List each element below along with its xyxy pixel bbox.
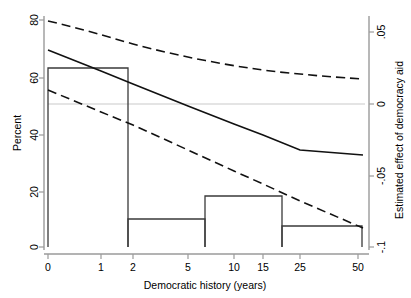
x-tick-label: 0 [45, 261, 51, 273]
x-tick-label: 2 [130, 261, 136, 273]
x-tick-label: 25 [294, 261, 306, 273]
x-tick-label: 15 [257, 261, 269, 273]
y-tick-label: 0 [28, 244, 40, 250]
histogram-bar [128, 219, 205, 247]
x-tick-label: 50 [352, 261, 364, 273]
x-axis-title: Democratic history (years) [144, 279, 267, 291]
left-axis: 80 60 40 20 0 Percent [11, 14, 44, 250]
y2-axis-title: Estimated effect of democracy aid [393, 61, 405, 219]
histogram-bar [205, 196, 282, 247]
y2-tick-label: -.05 [375, 167, 387, 185]
histogram-bar [282, 226, 362, 247]
x-tick-label: 1 [98, 261, 104, 273]
y2-tick-label: .05 [375, 25, 387, 40]
marginal-effect-line [48, 50, 363, 155]
chart-figure: 80 60 40 20 0 Percent 0 1 2 5 10 15 25 5… [0, 0, 411, 298]
x-tick-label: 5 [185, 261, 191, 273]
x-axis: 0 1 2 5 10 15 25 50 Democratic history (… [44, 254, 369, 291]
y2-tick-label: 0 [375, 101, 387, 107]
y-tick-label: 40 [28, 129, 40, 141]
y-tick-label: 60 [28, 72, 40, 84]
upper-confidence-bound [48, 21, 363, 79]
marginal-effect-plot: 80 60 40 20 0 Percent 0 1 2 5 10 15 25 5… [0, 0, 411, 298]
y-axis-title: Percent [11, 115, 23, 151]
y2-tick-label: -.1 [375, 241, 387, 253]
right-axis: .05 0 -.05 -.1 Estimated effect of democ… [369, 16, 405, 253]
x-tick-label: 10 [228, 261, 240, 273]
histogram-bar [48, 68, 128, 247]
y-tick-label: 20 [28, 186, 40, 198]
y-tick-label: 80 [28, 14, 40, 26]
